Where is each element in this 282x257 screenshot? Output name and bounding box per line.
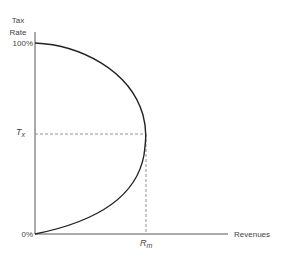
y-tick-100: 100% xyxy=(13,39,33,48)
rm-marker-label: Rm xyxy=(140,238,153,249)
tx-marker-label: Tx xyxy=(16,127,26,138)
laffer-curve xyxy=(35,43,146,234)
y-tick-0: 0% xyxy=(21,230,33,239)
y-axis-label-line1: Tax xyxy=(12,16,24,25)
laffer-curve-chart: Tax Rate 100% 0% Tx Rm Revenues xyxy=(0,0,282,257)
x-axis-label: Revenues xyxy=(234,230,270,239)
y-axis-label-line2: Rate xyxy=(10,28,27,37)
